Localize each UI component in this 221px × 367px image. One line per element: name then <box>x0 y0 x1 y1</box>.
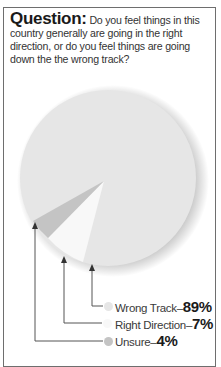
legend-value: 4% <box>156 332 177 349</box>
legend-value: 7% <box>192 315 213 332</box>
legend-label: Unsure– <box>115 336 156 348</box>
legend-dot-unsure <box>104 337 113 346</box>
legend-item-unsure: Unsure–4% <box>115 332 177 349</box>
legend-label: Right Direction– <box>115 319 192 331</box>
legend-label: Wrong Track– <box>115 302 183 314</box>
legend-dot-right-direction <box>103 319 112 328</box>
legend-item-wrong-track: Wrong Track–89% <box>115 298 212 315</box>
legend-value: 89% <box>183 298 212 315</box>
legend-item-right-direction: Right Direction–7% <box>115 315 213 332</box>
legend-dot-wrong-track <box>104 302 113 311</box>
slice-wrong-track <box>20 90 196 266</box>
